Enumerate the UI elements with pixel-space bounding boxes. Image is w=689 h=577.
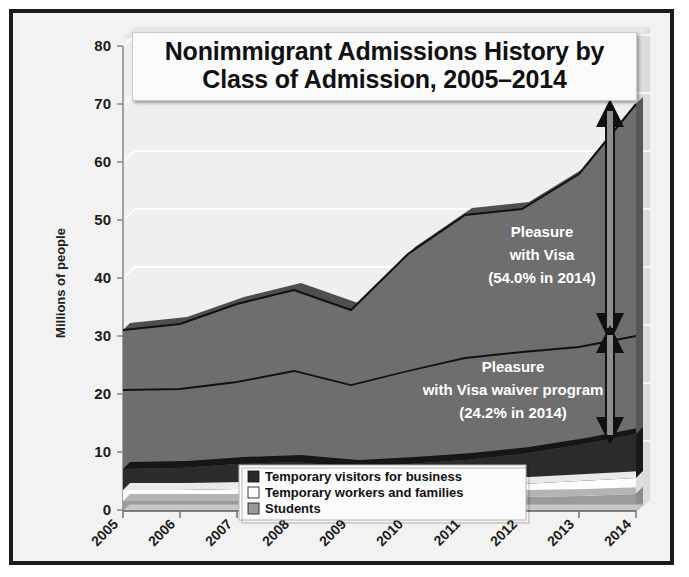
y-tick-70: 70 <box>94 95 111 112</box>
legend-item-workers-families[interactable]: Temporary workers and families <box>248 485 463 500</box>
annotation-pleasure-visa-line3: (54.0% in 2014) <box>488 269 596 286</box>
legend-item-students[interactable]: Students <box>248 501 321 516</box>
x-tick-labels: 2005 2006 2007 2008 2009 2010 2011 2012 … <box>88 516 634 549</box>
y-tick-0: 0 <box>103 501 111 518</box>
y-tick-20: 20 <box>94 385 111 402</box>
x-tick-2008: 2008 <box>259 516 292 549</box>
y-tick-60: 60 <box>94 153 111 170</box>
y-tick-80: 80 <box>94 37 111 54</box>
chart-frame: 80 70 60 50 40 30 20 10 0 Millions of pe… <box>9 9 674 565</box>
x-tick-2012: 2012 <box>487 516 520 549</box>
legend-item-business-visitors[interactable]: Temporary visitors for business <box>248 469 462 484</box>
annotation-pleasure-visa-line2: with Visa <box>509 246 575 263</box>
chart-legend: Temporary visitors for business Temporar… <box>239 465 529 523</box>
y-axis <box>117 46 123 510</box>
x-tick-2007: 2007 <box>202 516 235 549</box>
annotation-visa-waiver-line1: Pleasure <box>482 358 545 375</box>
annotation-visa-waiver-line3: (24.2% in 2014) <box>459 404 567 421</box>
legend-swatch-workers-families <box>248 487 259 498</box>
legend-swatch-students <box>248 503 259 514</box>
chart-title-line1: Nonimmigrant Admissions History by <box>139 37 630 65</box>
x-tick-2009: 2009 <box>316 516 349 549</box>
legend-label-workers-families: Temporary workers and families <box>265 485 463 500</box>
chart-title-line2: Class of Admission, 2005–2014 <box>139 65 630 93</box>
y-tick-40: 40 <box>94 269 111 286</box>
y-tick-50: 50 <box>94 211 111 228</box>
x-tick-2014: 2014 <box>601 516 634 549</box>
legend-swatch-business-visitors <box>248 471 259 482</box>
y-tick-10: 10 <box>94 443 111 460</box>
y-tick-30: 30 <box>94 327 111 344</box>
chart-title: Nonimmigrant Admissions History by Class… <box>132 32 637 101</box>
stack-side-wall <box>636 97 643 511</box>
x-tick-2013: 2013 <box>544 516 577 549</box>
y-tick-labels: 80 70 60 50 40 30 20 10 0 <box>94 37 111 518</box>
x-tick-2011: 2011 <box>430 516 463 549</box>
legend-label-business-visitors: Temporary visitors for business <box>265 469 462 484</box>
annotation-visa-waiver-line2: with Visa waiver program <box>422 381 604 398</box>
y-axis-title: Millions of people <box>53 228 68 338</box>
x-tick-2010: 2010 <box>373 516 406 549</box>
x-tick-2006: 2006 <box>145 516 178 549</box>
annotation-pleasure-visa-line1: Pleasure <box>511 223 574 240</box>
legend-label-students: Students <box>265 501 321 516</box>
x-tick-2005: 2005 <box>88 516 121 549</box>
